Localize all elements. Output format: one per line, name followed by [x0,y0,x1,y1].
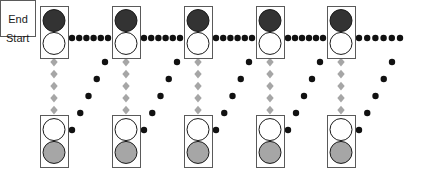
horizontal-dot [141,35,147,41]
lamp-lower [330,141,352,163]
diagonal-dot [174,59,180,65]
diagram-canvas: Start End [0,0,441,173]
lamp-lower [43,141,65,163]
lamp-lower [259,32,281,54]
horizontal-dot [313,35,319,41]
lamp-lower [187,141,209,163]
lamp-upper [330,119,352,141]
diagram-svg [0,0,441,173]
diamond-marker [50,82,57,91]
diagonal-dot [213,127,219,133]
horizontal-dot [177,35,183,41]
diagonal-dot [238,76,244,82]
horizontal-dot [148,35,154,41]
bottom-traffic-light-row [41,116,356,168]
horizontal-dot [105,35,111,41]
diamond-marker [266,94,273,103]
diamond-marker [194,82,201,91]
diagonal-dot [356,127,362,133]
diagonal-dot [157,93,163,99]
bottom-light-1 [41,116,69,168]
horizontal-dot [364,35,370,41]
horizontal-dot [380,35,386,41]
diamond-marker [266,70,273,79]
diagonal-dot [229,93,235,99]
diamond-marker [337,106,344,115]
diamond-marker [194,106,201,115]
horizontal-dot [98,35,104,41]
diamond-marker [266,82,273,91]
diamond-marker [50,106,57,115]
lamp-upper [115,10,137,32]
top-light-1 [41,7,69,59]
diagonal-dot [389,59,395,65]
diagonal-dot [246,59,252,65]
horizontal-dot [90,35,96,41]
horizontal-dot [220,35,226,41]
diamond-marker [194,70,201,79]
diagonal-dot [381,76,387,82]
diagonal-dot [69,127,75,133]
horizontal-dot [234,35,240,41]
lamp-lower [187,32,209,54]
start-label: Start [6,32,29,44]
diamond-connectors [50,58,344,115]
diamond-marker [122,82,129,91]
horizontal-dot [83,35,89,41]
bottom-light-4 [257,116,285,168]
horizontal-dot [170,35,176,41]
horizontal-dot [242,35,248,41]
diagonal-dot [166,76,172,82]
diamond-marker [266,106,273,115]
horizontal-dot [155,35,161,41]
lamp-upper [259,10,281,32]
diagonal-dot [309,76,315,82]
horizontal-dot [299,35,305,41]
diagonal-dot [221,110,227,116]
lamp-lower [43,32,65,54]
horizontal-dot [292,35,298,41]
diamond-marker [194,94,201,103]
diagonal-dot [102,59,108,65]
top-light-2 [113,7,141,59]
diagonal-dot [293,110,299,116]
diamond-marker [337,70,344,79]
diamond-marker [122,70,129,79]
diagonal-dot [317,59,323,65]
diagonal-dot [149,110,155,116]
horizontal-dot [213,35,219,41]
horizontal-dot [397,35,403,41]
lamp-upper [330,10,352,32]
top-light-5 [328,7,356,59]
horizontal-dot [249,35,255,41]
diagonal-dot [372,93,378,99]
horizontal-dot [162,35,168,41]
lamp-upper [259,119,281,141]
bottom-light-2 [113,116,141,168]
horizontal-dot [356,35,362,41]
diamond-marker [122,94,129,103]
horizontal-dot [227,35,233,41]
diamond-marker [122,106,129,115]
horizontal-dot [306,35,312,41]
top-light-3 [185,7,213,59]
horizontal-dot [285,35,291,41]
diagonal-dot [364,110,370,116]
bottom-light-3 [185,116,213,168]
lamp-upper [115,119,137,141]
diamond-marker [50,70,57,79]
horizontal-dot [389,35,395,41]
diagonal-dot [94,76,100,82]
diamond-marker [337,94,344,103]
diagonal-dot [77,110,83,116]
top-traffic-light-row [41,7,356,59]
diagonal-dot [301,93,307,99]
lamp-upper [187,10,209,32]
lamp-upper [187,119,209,141]
diamond-marker [50,94,57,103]
lamp-upper [43,10,65,32]
lamp-lower [330,32,352,54]
lamp-lower [115,32,137,54]
horizontal-dot [372,35,378,41]
diagonal-dot [285,127,291,133]
